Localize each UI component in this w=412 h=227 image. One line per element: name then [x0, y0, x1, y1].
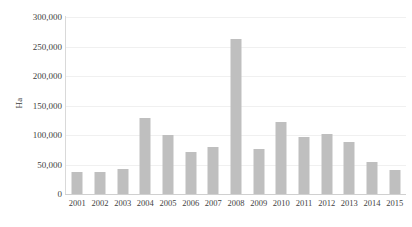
bar-slot: [293, 17, 316, 194]
bar[interactable]: [117, 169, 128, 194]
y-tick-label: 300,000: [14, 12, 62, 22]
bar[interactable]: [230, 39, 241, 194]
y-tick-label: 100,000: [14, 130, 62, 140]
bar-slot: [315, 17, 338, 194]
bar-slot: [89, 17, 112, 194]
x-tick-label: 2004: [137, 198, 154, 209]
y-tick-label: 200,000: [14, 71, 62, 81]
x-tick-label: 2014: [364, 198, 381, 209]
y-tick-label: 250,000: [14, 42, 62, 52]
y-tick-label: 50,000: [14, 160, 62, 170]
bar[interactable]: [208, 147, 219, 194]
x-tick-label: 2001: [69, 198, 86, 209]
x-tick-label: 2015: [386, 198, 403, 209]
bar-slot: [111, 17, 134, 194]
x-tick-label: 2007: [205, 198, 222, 209]
x-tick-label: 2012: [318, 198, 335, 209]
bar[interactable]: [366, 162, 377, 194]
bar[interactable]: [253, 149, 264, 194]
x-tick-label: 2003: [114, 198, 131, 209]
x-tick-label: 2010: [273, 198, 290, 209]
bar-slot: [134, 17, 157, 194]
x-tick-label: 2002: [92, 198, 109, 209]
bar-slot: [270, 17, 293, 194]
y-tick-label: 0: [14, 189, 62, 199]
bar-slot: [338, 17, 361, 194]
bar[interactable]: [321, 134, 332, 194]
bar[interactable]: [162, 135, 173, 194]
bar-slot: [179, 17, 202, 194]
x-tick-label: 2011: [296, 198, 313, 209]
bar[interactable]: [140, 118, 151, 194]
bar-slot: [202, 17, 225, 194]
x-tick-label: 2006: [182, 198, 199, 209]
bar[interactable]: [185, 152, 196, 194]
bar[interactable]: [276, 122, 287, 194]
bar-slot: [225, 17, 248, 194]
bar-slot: [383, 17, 406, 194]
plot-area: [66, 17, 406, 194]
bars-layer: [66, 17, 406, 194]
bar[interactable]: [72, 172, 83, 194]
bar[interactable]: [94, 172, 105, 194]
x-axis-tick-labels: 2001200220032004200520062007200820092010…: [66, 198, 406, 218]
x-tick-label: 2013: [341, 198, 358, 209]
y-tick-label: 150,000: [14, 101, 62, 111]
y-axis-tick-labels: 050,000100,000150,000200,000250,000300,0…: [14, 0, 62, 227]
x-tick-label: 2005: [160, 198, 177, 209]
bar[interactable]: [389, 170, 400, 194]
bar-chart: Ha 050,000100,000150,000200,000250,00030…: [0, 0, 412, 227]
bar-slot: [66, 17, 89, 194]
bar-slot: [361, 17, 384, 194]
bar-slot: [247, 17, 270, 194]
bar[interactable]: [298, 137, 309, 194]
x-tick-label: 2008: [228, 198, 245, 209]
x-axis-line: [65, 194, 406, 195]
bar[interactable]: [344, 142, 355, 195]
bar-slot: [157, 17, 180, 194]
x-tick-label: 2009: [250, 198, 267, 209]
